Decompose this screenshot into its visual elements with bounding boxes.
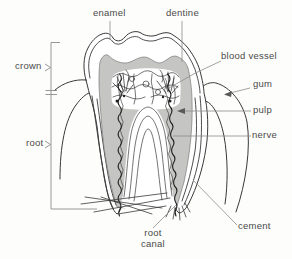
cement-leader-line — [193, 180, 237, 225]
root-arrow-icon — [45, 141, 51, 148]
label-root-canal-line2: canal — [133, 239, 173, 250]
label-blood-vessel: blood vessel — [221, 51, 277, 62]
label-root-canal-line1: root — [133, 228, 173, 239]
label-enamel: enamel — [93, 8, 126, 19]
label-gum: gum — [253, 79, 272, 90]
label-cement: cement — [238, 221, 271, 232]
label-root: root — [26, 138, 43, 149]
tooth-cross-section-diagram: enamel dentine blood vessel gum pulp ner… — [0, 0, 292, 259]
crown-arrow-icon — [45, 64, 51, 71]
gum-leader-arrow-icon — [224, 91, 232, 97]
label-pulp: pulp — [253, 105, 272, 116]
label-crown: crown — [15, 61, 42, 72]
label-dentine: dentine — [166, 8, 199, 19]
label-root-canal: root canal — [133, 228, 173, 249]
label-nerve: nerve — [252, 130, 277, 141]
